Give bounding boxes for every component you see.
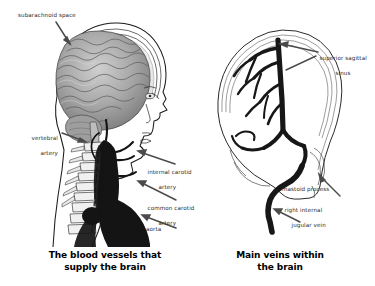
label-vertebral-artery: vertebral artery bbox=[12, 128, 58, 164]
cerebral-veins bbox=[232, 40, 306, 166]
caption-brain-veins: Main veins within the brain bbox=[205, 250, 355, 273]
label-superior-sagittal-sinus: superior sagittal sinus bbox=[312, 48, 374, 84]
label-aorta: aorta bbox=[146, 226, 161, 233]
label-superior-sagittal-sinus-line2: sinus bbox=[336, 70, 351, 77]
label-mastoid-process: mastoid process bbox=[282, 186, 329, 193]
label-internal-carotid-artery-line1: internal carotid bbox=[148, 169, 192, 175]
caption-brain-veins-line2: the brain bbox=[257, 262, 303, 272]
label-internal-carotid-artery: internal carotid artery bbox=[140, 162, 194, 198]
label-right-internal-jugular-vein-line2: jugular vein bbox=[292, 222, 326, 229]
caption-brain-veins-line1: Main veins within bbox=[236, 250, 324, 260]
illustration-canvas: subarachnoid space vertebral artery inte… bbox=[0, 0, 375, 286]
label-common-carotid-artery-line1: common carotid bbox=[148, 205, 195, 211]
brain bbox=[56, 31, 150, 130]
label-subarachnoid-space: subarachnoid space bbox=[18, 12, 76, 19]
label-superior-sagittal-sinus-line1: superior sagittal bbox=[320, 55, 367, 61]
label-right-internal-jugular-vein: right internal jugular vein bbox=[277, 200, 335, 236]
caption-blood-supply: The blood vessels that supply the brain bbox=[20, 250, 190, 273]
label-vertebral-artery-line1: vertebral bbox=[32, 135, 58, 141]
caption-blood-supply-line2: supply the brain bbox=[64, 262, 146, 272]
label-vertebral-artery-line2: artery bbox=[40, 150, 58, 156]
caption-blood-supply-line1: The blood vessels that bbox=[49, 250, 162, 260]
label-internal-carotid-artery-line2: artery bbox=[159, 184, 177, 191]
label-right-internal-jugular-vein-line1: right internal bbox=[285, 207, 323, 213]
